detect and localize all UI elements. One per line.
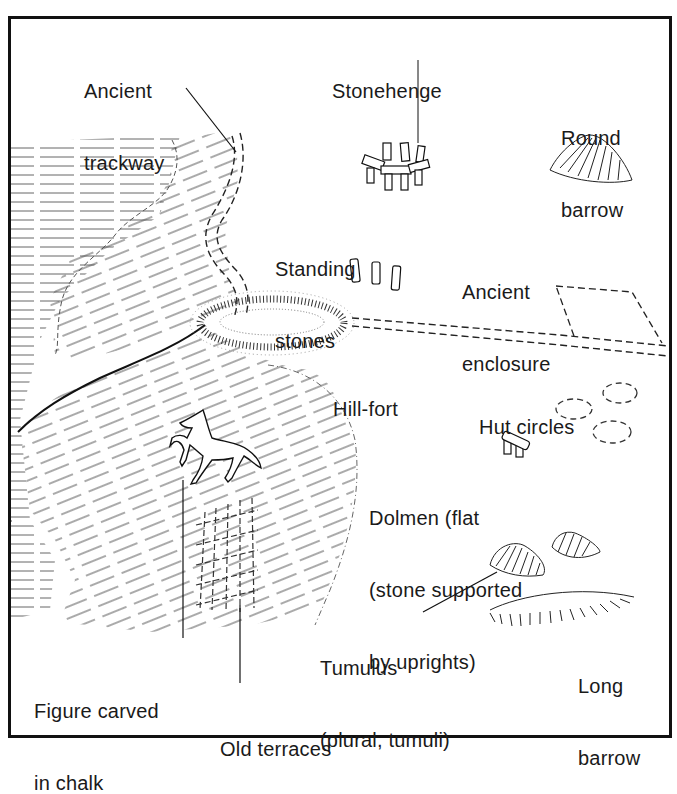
label-line: Dolmen (flat xyxy=(369,506,522,530)
label-stonehenge: Stonehenge xyxy=(332,31,442,127)
label-line: Old terraces xyxy=(220,737,331,761)
label-line: Hut circles xyxy=(479,415,575,439)
stonehenge-drawing xyxy=(362,143,430,190)
label-line: Hill-fort xyxy=(333,397,398,421)
label-tumulus: Tumulus (plural, tumuli) xyxy=(320,608,450,776)
standing-stones-drawing xyxy=(350,259,401,291)
label-hut-circles: Hut circles xyxy=(479,367,575,463)
ancient-enclosure-drawing xyxy=(556,286,662,343)
label-figure-carved: Figure carved in chalk xyxy=(34,651,159,794)
label-line: in chalk xyxy=(34,771,159,794)
label-line: Round xyxy=(561,126,623,150)
label-round-barrow: Round barrow xyxy=(561,78,623,246)
label-line: Standing xyxy=(275,257,356,281)
label-line: Ancient xyxy=(84,79,165,103)
label-line: trackway xyxy=(84,151,165,175)
label-line: barrow xyxy=(578,746,640,770)
label-line: Ancient xyxy=(462,280,551,304)
label-old-terraces: Old terraces xyxy=(220,689,331,785)
label-line: barrow xyxy=(561,198,623,222)
label-hill-fort: Hill-fort xyxy=(333,349,398,445)
label-line: Tumulus xyxy=(320,656,450,680)
label-line: (plural, tumuli) xyxy=(320,728,450,752)
label-line: (stone supported xyxy=(369,578,522,602)
label-long-barrow: Long barrow xyxy=(578,626,640,794)
label-line: Figure carved xyxy=(34,699,159,723)
label-ancient-trackway: Ancient trackway xyxy=(84,31,165,199)
label-line: Stonehenge xyxy=(332,79,442,103)
label-line: Long xyxy=(578,674,640,698)
